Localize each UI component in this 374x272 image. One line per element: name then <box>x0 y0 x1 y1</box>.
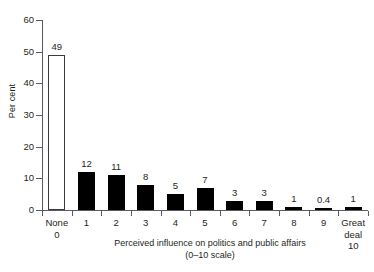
x-category-sublabel: 0 <box>35 229 79 241</box>
y-tick-mark <box>36 20 43 21</box>
x-category-name: 7 <box>262 217 267 228</box>
bar <box>48 55 65 210</box>
y-tick-mark <box>36 115 43 116</box>
x-category-name: 4 <box>173 217 178 228</box>
x-category-name: 9 <box>321 217 326 228</box>
bar <box>108 175 125 210</box>
y-tick-mark <box>36 178 43 179</box>
x-category-name: 2 <box>113 217 118 228</box>
x-tick-mark <box>249 211 250 216</box>
bar <box>256 201 273 211</box>
y-tick-label: 20 <box>0 142 34 152</box>
bar-value-label: 7 <box>187 175 223 185</box>
x-tick-mark <box>279 211 280 216</box>
x-axis-title: Perceived influence on politics and publ… <box>110 238 310 261</box>
y-tick-mark <box>36 52 43 53</box>
bar <box>167 194 184 210</box>
bar-value-label: 49 <box>39 42 75 52</box>
y-axis-title: Per cent <box>7 66 17 136</box>
x-category-name: 8 <box>291 217 296 228</box>
bar <box>226 201 243 211</box>
x-tick-mark <box>368 211 369 216</box>
y-tick-label: 0 <box>0 205 34 215</box>
x-tick-mark <box>161 211 162 216</box>
x-category-name: 3 <box>143 217 148 228</box>
x-category-name: 1 <box>84 217 89 228</box>
y-tick-label: 40 <box>0 78 34 88</box>
x-tick-mark <box>338 211 339 216</box>
y-tick-mark <box>36 83 43 84</box>
bar-chart: Per cent 0102030405060 4912118573310.41 … <box>0 0 374 272</box>
bar-value-label: 1 <box>335 194 371 204</box>
x-tick-mark <box>72 211 73 216</box>
x-axis-line <box>42 210 368 211</box>
bar-value-label: 11 <box>98 162 134 172</box>
x-tick-mark <box>190 211 191 216</box>
y-tick-label: 50 <box>0 47 34 57</box>
bar <box>285 207 302 210</box>
y-tick-label: 60 <box>0 15 34 25</box>
y-tick-label: 30 <box>0 110 34 120</box>
bar <box>345 207 362 210</box>
x-tick-mark <box>42 211 43 216</box>
x-tick-mark <box>220 211 221 216</box>
bar <box>197 188 214 210</box>
x-category-name: Greatdeal <box>341 217 365 240</box>
x-category-label: Greatdeal10 <box>331 217 374 252</box>
y-tick-label: 10 <box>0 173 34 183</box>
bar-value-label: 8 <box>128 172 164 182</box>
bar <box>315 208 332 211</box>
x-category-name: 6 <box>232 217 237 228</box>
x-tick-mark <box>101 211 102 216</box>
y-tick-mark <box>36 147 43 148</box>
bar <box>78 172 95 210</box>
bar <box>137 185 154 210</box>
x-tick-mark <box>131 211 132 216</box>
x-category-name: 5 <box>202 217 207 228</box>
x-category-sublabel: 10 <box>331 240 374 252</box>
x-tick-mark <box>309 211 310 216</box>
